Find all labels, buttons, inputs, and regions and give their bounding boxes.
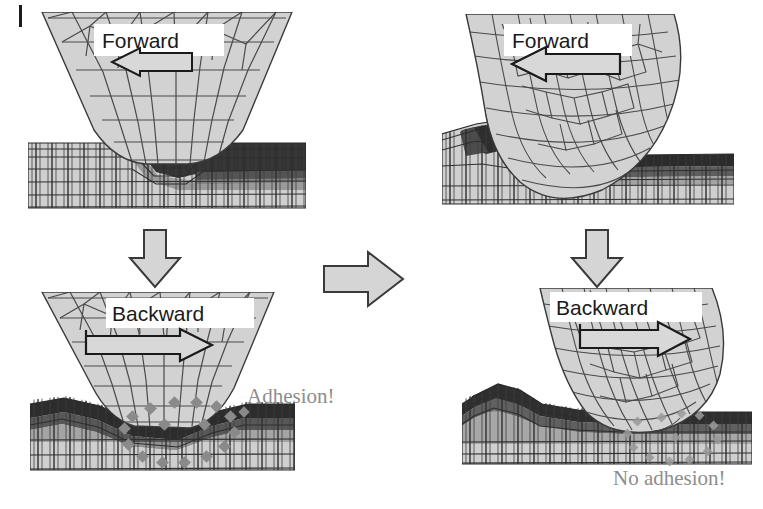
- no-adhesion-caption: No adhesion!: [613, 466, 726, 491]
- direction-label-bottom-right: Backward: [550, 292, 702, 322]
- direction-label-top-right: Forward: [504, 24, 632, 56]
- direction-label-bottom-left: Backward: [106, 298, 254, 328]
- flow-arrow-down-right-svg: [568, 228, 626, 290]
- panel-top-left-svg: Forward: [28, 12, 306, 212]
- flow-arrow-down-right: [568, 228, 626, 290]
- fem-scratch-simulation-figure: Forward: [0, 0, 763, 509]
- flow-arrow-right-middle: [322, 248, 406, 310]
- direction-label-top-left: Forward: [94, 24, 224, 56]
- page-margin-tick: [19, 5, 22, 27]
- adhesion-caption: Adhesion!: [247, 384, 335, 409]
- flow-arrow-right-middle-svg: [322, 248, 406, 310]
- panel-rounded-tool-forward: Forward: [442, 14, 734, 214]
- flow-arrow-down-left: [126, 228, 184, 290]
- direction-label-text-top-right: Forward: [512, 29, 589, 52]
- panel-top-right-svg: Forward: [442, 14, 734, 214]
- panel-rounded-tool-backward: Backward: [462, 288, 752, 468]
- panel-sharp-tool-forward: Forward: [28, 12, 306, 212]
- panel-bottom-right-svg: Backward: [462, 288, 752, 468]
- flow-arrow-down-left-svg: [126, 228, 184, 290]
- direction-label-text-bottom-right: Backward: [556, 296, 648, 319]
- direction-label-text-bottom-left: Backward: [112, 302, 204, 325]
